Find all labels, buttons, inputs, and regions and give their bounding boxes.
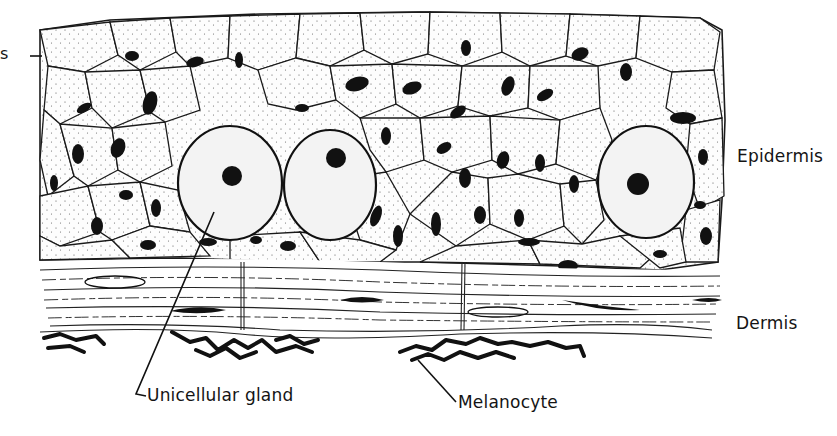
unicellular-gland-label: Unicellular gland [147, 385, 293, 405]
dermis-layer [40, 259, 722, 338]
dermis-label: Dermis [736, 313, 798, 333]
edge-fragment-label: s [0, 44, 9, 63]
epidermis-layer [40, 12, 725, 272]
skin-section-illustration [0, 0, 837, 436]
melanocytes [44, 332, 584, 360]
melanocyte-leader [418, 360, 456, 402]
melanocyte-label: Melanocyte [458, 392, 558, 412]
epidermis-label: Epidermis [737, 146, 823, 166]
